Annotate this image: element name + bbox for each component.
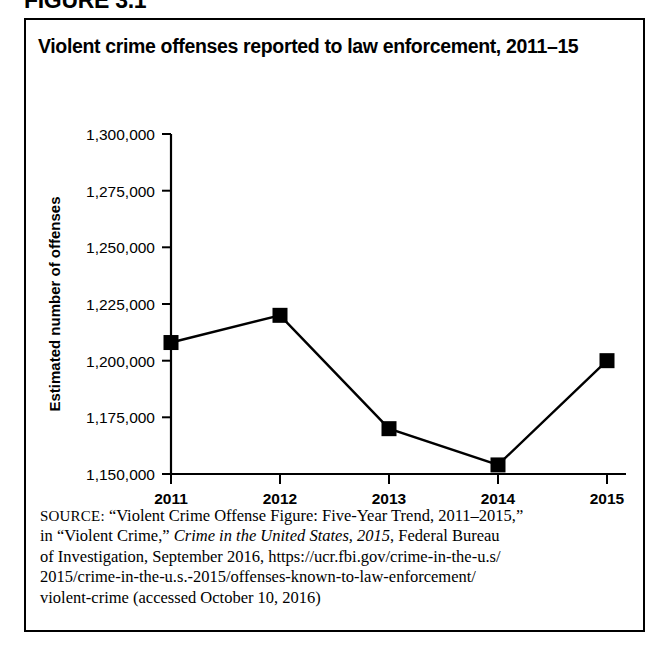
x-tick-label-2015: 2015 bbox=[590, 490, 625, 507]
source-line5: violent-crime (accessed October 10, 2016… bbox=[40, 588, 321, 607]
source-line3: of Investigation, September 2016, https:… bbox=[40, 547, 501, 566]
x-tick-label-2011: 2011 bbox=[154, 490, 188, 507]
data-point-2013 bbox=[382, 421, 397, 436]
data-point-2014 bbox=[491, 457, 506, 472]
source-publication-title: Crime in the United States, 2015 bbox=[174, 526, 390, 545]
x-tick-label-2014: 2014 bbox=[481, 490, 516, 507]
y-tick-label-1300000: 1,300,000 bbox=[86, 126, 155, 143]
figure-box: Violent crime offenses reported to law e… bbox=[24, 18, 645, 632]
source-line2-pre: in “Violent Crime,” bbox=[40, 526, 174, 545]
source-prefix: SOURCE: bbox=[40, 508, 105, 524]
data-point-2012 bbox=[273, 308, 288, 323]
y-tick-label-1150000: 1,150,000 bbox=[86, 466, 155, 483]
data-point-2015 bbox=[600, 353, 615, 368]
data-series-line bbox=[171, 315, 607, 465]
source-note: SOURCE: “Violent Crime Offense Figure: F… bbox=[40, 506, 634, 608]
y-axis-title: Estimated number of offenses bbox=[46, 196, 63, 411]
source-line2-post: , Federal Bureau bbox=[390, 526, 500, 545]
source-line1: “Violent Crime Offense Figure: Five-Year… bbox=[105, 506, 524, 525]
x-tick-label-2012: 2012 bbox=[263, 490, 297, 507]
x-tick-label-2013: 2013 bbox=[372, 490, 407, 507]
figure-number-label: FIGURE 3.1 bbox=[24, 0, 146, 14]
y-tick-label-1275000: 1,275,000 bbox=[86, 183, 155, 200]
y-tick-label-1250000: 1,250,000 bbox=[86, 239, 155, 256]
data-point-2011 bbox=[164, 335, 179, 350]
y-tick-label-1175000: 1,175,000 bbox=[86, 409, 155, 426]
y-tick-label-1200000: 1,200,000 bbox=[86, 353, 155, 370]
y-tick-label-1225000: 1,225,000 bbox=[86, 296, 155, 313]
source-line4: 2015/crime-in-the-u.s.-2015/offenses-kno… bbox=[40, 567, 476, 586]
y-tick-marks bbox=[162, 134, 171, 474]
x-tick-marks bbox=[171, 474, 607, 484]
line-chart-svg: 1,300,000 1,275,000 1,250,000 1,225,000 … bbox=[26, 20, 643, 520]
chart-plot-area: 1,300,000 1,275,000 1,250,000 1,225,000 … bbox=[26, 20, 643, 520]
data-series-markers bbox=[164, 308, 615, 473]
